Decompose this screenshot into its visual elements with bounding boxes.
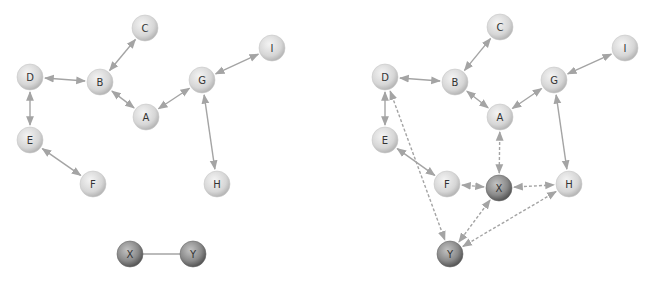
edge-left-E-F xyxy=(42,149,80,176)
node-left-X: X xyxy=(117,241,143,267)
node-left-H: H xyxy=(204,171,230,197)
node-right-E: E xyxy=(372,127,398,153)
node-left-D: D xyxy=(17,64,43,90)
node-label: B xyxy=(452,77,459,88)
edge-left-G-I xyxy=(216,54,259,74)
edge-left-G-H xyxy=(204,95,215,169)
node-label: D xyxy=(26,72,34,83)
node-label: Y xyxy=(189,249,197,260)
node-label: H xyxy=(213,179,221,190)
node-right-A: A xyxy=(487,104,513,130)
edge-right-Y-H xyxy=(463,192,556,247)
node-label: G xyxy=(550,75,558,86)
edge-right-X-H xyxy=(514,185,554,187)
node-left-B: B xyxy=(87,69,113,95)
node-right-X: X xyxy=(486,175,512,201)
edge-right-G-H xyxy=(556,95,567,169)
edge-right-A-X xyxy=(499,132,500,173)
node-label: X xyxy=(127,249,134,260)
node-label: F xyxy=(90,179,96,190)
edge-right-X-Y xyxy=(459,200,490,242)
edge-right-D-B xyxy=(400,78,440,81)
node-right-H: H xyxy=(556,171,582,197)
node-label: D xyxy=(381,72,389,83)
node-left-A: A xyxy=(133,104,159,130)
node-left-I: I xyxy=(259,35,285,61)
node-right-Y: Y xyxy=(437,241,463,267)
network-diagram: CIDBGAEFHXYCIDBGAEFXHY xyxy=(0,0,651,289)
node-label: A xyxy=(497,112,504,123)
node-label: I xyxy=(271,43,274,54)
edge-right-F-X xyxy=(462,185,484,187)
edge-right-G-I xyxy=(568,54,612,74)
node-right-D: D xyxy=(372,64,398,90)
edge-right-B-A xyxy=(467,91,488,108)
edge-right-D-Y xyxy=(390,91,445,240)
node-label: B xyxy=(97,77,104,88)
node-left-Y: Y xyxy=(180,241,206,267)
node-right-B: B xyxy=(442,69,468,95)
edge-left-A-G xyxy=(159,88,190,108)
node-right-G: G xyxy=(541,67,567,93)
node-left-F: F xyxy=(80,171,106,197)
nodes-layer: CIDBGAEFHXYCIDBGAEFXHY xyxy=(17,14,638,267)
node-label: E xyxy=(382,135,388,146)
node-label: H xyxy=(565,179,573,190)
node-label: A xyxy=(143,112,150,123)
edge-left-D-B xyxy=(45,78,85,81)
node-label: C xyxy=(142,23,149,34)
node-left-C: C xyxy=(132,15,158,41)
node-right-C: C xyxy=(487,14,513,40)
edges-layer xyxy=(30,39,611,254)
node-label: Y xyxy=(446,249,454,260)
edge-right-B-C xyxy=(464,39,490,71)
node-label: C xyxy=(497,22,504,33)
node-right-I: I xyxy=(612,35,638,61)
edge-left-B-A xyxy=(112,91,134,108)
node-left-E: E xyxy=(17,127,43,153)
node-right-F: F xyxy=(434,171,460,197)
node-label: X xyxy=(496,183,503,194)
node-label: I xyxy=(624,43,627,54)
node-label: G xyxy=(198,75,206,86)
edge-left-B-C xyxy=(110,40,136,71)
node-left-G: G xyxy=(189,67,215,93)
node-label: E xyxy=(27,135,33,146)
node-label: F xyxy=(444,179,450,190)
edge-right-A-G xyxy=(512,88,541,108)
